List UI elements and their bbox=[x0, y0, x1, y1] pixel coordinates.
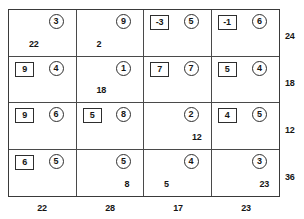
circle-value: 9 bbox=[116, 14, 131, 29]
tableau-cell-r3c3[interactable]: 2 12 bbox=[144, 103, 212, 150]
boxed-value: 5 bbox=[218, 62, 237, 77]
tableau-cell-r2c4[interactable]: 5 4 bbox=[212, 57, 280, 104]
allocation-value: 2 bbox=[97, 39, 102, 49]
circle-value: 5 bbox=[252, 107, 267, 122]
tableau-cell-r2c3[interactable]: 7 7 bbox=[144, 57, 212, 104]
demand-label-col-1: 22 bbox=[22, 203, 62, 213]
circle-value: 2 bbox=[184, 107, 199, 122]
demand-label-col-4: 23 bbox=[226, 203, 266, 213]
supply-label-row-4: 36 bbox=[285, 172, 303, 182]
allocation-value: 22 bbox=[29, 39, 39, 49]
circle-value: 3 bbox=[252, 154, 267, 169]
boxed-value: -3 bbox=[150, 15, 169, 30]
transportation-tableau: 3 22 9 2 -3 5 -1 6 9 4 1 18 7 7 5 bbox=[0, 0, 304, 219]
allocation-value: 12 bbox=[192, 132, 202, 142]
supply-label-row-1: 24 bbox=[285, 31, 303, 41]
tableau-cell-r1c3[interactable]: -3 5 bbox=[144, 10, 212, 57]
tableau-cell-r1c1[interactable]: 3 22 bbox=[9, 10, 77, 57]
supply-label-row-2: 18 bbox=[285, 78, 303, 88]
tableau-cell-r4c1[interactable]: 6 5 bbox=[9, 150, 77, 197]
boxed-value: -1 bbox=[218, 15, 237, 30]
tableau-cell-r2c1[interactable]: 9 4 bbox=[9, 57, 77, 104]
boxed-value: 9 bbox=[15, 108, 34, 123]
tableau-grid: 3 22 9 2 -3 5 -1 6 9 4 1 18 7 7 5 bbox=[8, 9, 280, 197]
circle-value: 1 bbox=[116, 61, 131, 76]
tableau-cell-r3c2[interactable]: 5 8 bbox=[77, 103, 145, 150]
tableau-cell-r3c1[interactable]: 9 6 bbox=[9, 103, 77, 150]
supply-label-row-3: 12 bbox=[285, 125, 303, 135]
allocation-value: 18 bbox=[97, 85, 107, 95]
circle-value: 4 bbox=[49, 61, 64, 76]
circle-value: 6 bbox=[49, 107, 64, 122]
circle-value: 7 bbox=[184, 61, 199, 76]
demand-label-col-2: 28 bbox=[90, 203, 130, 213]
circle-value: 5 bbox=[116, 154, 131, 169]
allocation-value: 23 bbox=[260, 179, 270, 189]
allocation-value: 8 bbox=[125, 179, 130, 189]
boxed-value: 4 bbox=[218, 108, 237, 123]
circle-value: 8 bbox=[116, 107, 131, 122]
boxed-value: 6 bbox=[15, 155, 34, 170]
tableau-cell-r2c2[interactable]: 1 18 bbox=[77, 57, 145, 104]
boxed-value: 9 bbox=[15, 62, 34, 77]
demand-label-col-3: 17 bbox=[158, 203, 198, 213]
boxed-value: 5 bbox=[83, 108, 102, 123]
circle-value: 4 bbox=[184, 154, 199, 169]
circle-value: 5 bbox=[49, 154, 64, 169]
circle-value: 4 bbox=[252, 61, 267, 76]
tableau-cell-r3c4[interactable]: 4 5 bbox=[212, 103, 280, 150]
boxed-value: 7 bbox=[150, 62, 169, 77]
tableau-cell-r4c2[interactable]: 5 8 bbox=[77, 150, 145, 197]
circle-value: 3 bbox=[49, 14, 64, 29]
tableau-cell-r4c4[interactable]: 3 23 bbox=[212, 150, 280, 197]
tableau-cell-r4c3[interactable]: 4 5 bbox=[144, 150, 212, 197]
tableau-cell-r1c2[interactable]: 9 2 bbox=[77, 10, 145, 57]
allocation-value: 5 bbox=[164, 179, 169, 189]
circle-value: 5 bbox=[184, 14, 199, 29]
circle-value: 6 bbox=[252, 14, 267, 29]
tableau-cell-r1c4[interactable]: -1 6 bbox=[212, 10, 280, 57]
